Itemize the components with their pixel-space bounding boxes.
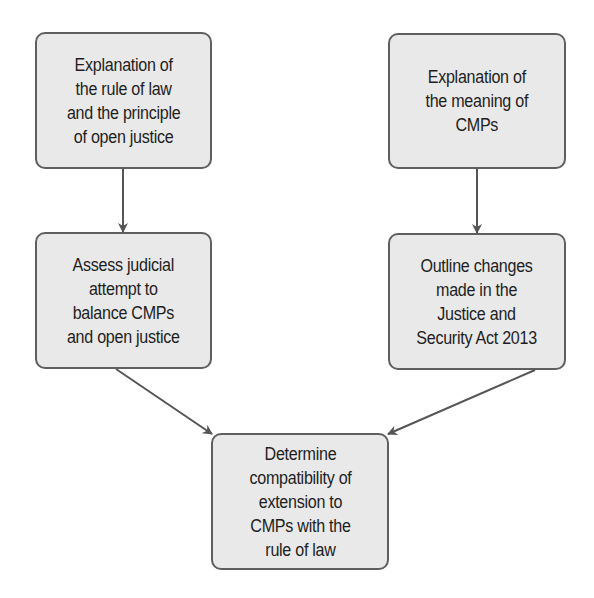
node-line: Determine: [249, 442, 351, 466]
node-line: attempt to: [67, 277, 180, 301]
node-jsa-2013: Outline changes made in the Justice and …: [388, 233, 566, 370]
node-judicial-balance-text: Assess judicial attempt to balance CMPs …: [67, 253, 180, 349]
node-rule-of-law-text: Explanation of the rule of law and the p…: [67, 53, 180, 149]
node-line: and open justice: [67, 325, 180, 349]
node-line: extension to: [249, 490, 351, 514]
node-line: Justice and: [417, 302, 538, 326]
node-jsa-2013-text: Outline changes made in the Justice and …: [417, 254, 538, 350]
node-line: CMPs: [426, 113, 529, 137]
node-meaning-cmps-text: Explanation of the meaning of CMPs: [426, 65, 529, 137]
node-compatibility: Determine compatibility of extension to …: [211, 433, 389, 570]
node-line: and the principle: [67, 101, 180, 125]
node-line: of open justice: [67, 125, 180, 149]
node-line: compatibility of: [249, 466, 351, 490]
arrow-jsa-2013-to-compatibility: [388, 370, 535, 434]
node-line: Explanation of: [67, 53, 180, 77]
node-line: Explanation of: [426, 65, 529, 89]
node-line: Assess judicial: [67, 253, 180, 277]
node-line: the rule of law: [67, 77, 180, 101]
node-line: rule of law: [249, 538, 351, 562]
node-line: the meaning of: [426, 89, 529, 113]
flowchart-canvas: Explanation of the rule of law and the p…: [0, 0, 594, 598]
node-judicial-balance: Assess judicial attempt to balance CMPs …: [35, 232, 212, 369]
node-line: Outline changes: [417, 254, 538, 278]
node-rule-of-law: Explanation of the rule of law and the p…: [35, 32, 212, 169]
node-line: balance CMPs: [67, 301, 180, 325]
node-meaning-cmps: Explanation of the meaning of CMPs: [388, 33, 566, 169]
arrow-judicial-balance-to-compatibility: [116, 369, 212, 434]
node-line: made in the: [417, 278, 538, 302]
node-compatibility-text: Determine compatibility of extension to …: [249, 442, 351, 562]
node-line: CMPs with the: [249, 514, 351, 538]
node-line: Security Act 2013: [417, 326, 538, 350]
